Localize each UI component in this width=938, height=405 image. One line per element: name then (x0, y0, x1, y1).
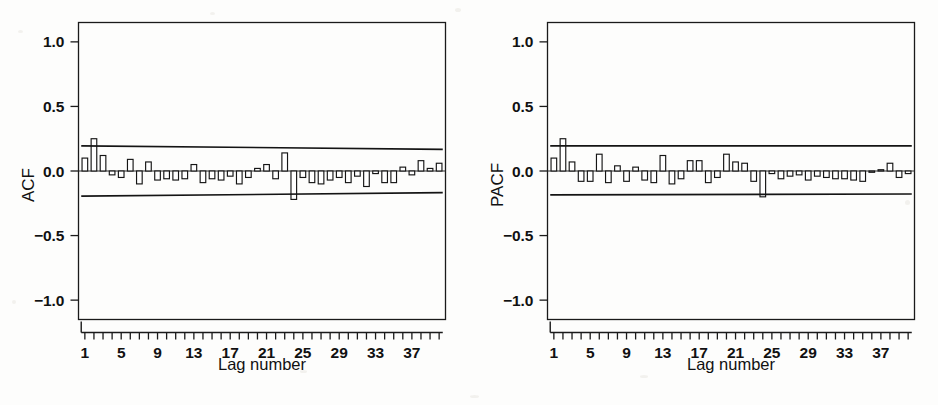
figure-page: 1.00.50.0−0.5−1.0 15913172125293337 ACF … (0, 0, 938, 405)
bar-lag-15 (678, 171, 684, 179)
y-tick-label: 1.0 (512, 33, 534, 50)
x-tick-label: 5 (586, 344, 595, 361)
bar-lag-15 (209, 171, 215, 179)
bar-lag-19 (715, 171, 721, 177)
bar-lag-11 (642, 171, 648, 180)
bar-lag-11 (173, 171, 179, 180)
bar-lag-32 (364, 171, 370, 187)
bar-lag-29 (336, 171, 342, 177)
bar-lag-12 (182, 171, 188, 179)
bar-lag-14 (200, 171, 206, 183)
y-tick-label: −1.0 (34, 292, 65, 309)
bar-lag-30 (345, 171, 351, 183)
bar-lag-23 (751, 171, 757, 181)
acf-y-ticks (71, 42, 79, 300)
x-tick-label: 5 (117, 344, 126, 361)
bar-lag-17 (227, 171, 233, 176)
acf-x-axis-title: Lag number (218, 355, 307, 373)
bar-lag-21 (733, 162, 739, 171)
bar-lag-22 (742, 163, 748, 171)
bar-lag-1 (551, 158, 557, 171)
pacf-confidence-band (550, 146, 912, 195)
bar-lag-35 (860, 171, 866, 181)
bar-lag-13 (660, 156, 666, 172)
bar-lag-4 (109, 171, 115, 175)
bar-lag-34 (851, 171, 857, 180)
pacf-y-ticks (540, 42, 548, 300)
bar-lag-13 (191, 165, 197, 171)
bar-lag-20 (255, 168, 261, 171)
bar-lag-12 (651, 171, 657, 183)
x-tick-label: 37 (403, 344, 420, 361)
bar-lag-38 (418, 161, 424, 171)
bar-lag-25 (769, 171, 775, 174)
bar-lag-35 (391, 171, 397, 183)
bar-lag-6 (596, 154, 602, 171)
x-tick-label: 13 (654, 344, 672, 361)
bar-lag-30 (814, 171, 820, 176)
bar-lag-29 (805, 171, 811, 180)
y-tick-label: −1.0 (503, 292, 534, 309)
bar-lag-26 (309, 171, 315, 183)
bar-lag-7 (606, 171, 612, 183)
y-tick-label: 1.0 (43, 33, 65, 50)
bar-lag-33 (842, 171, 848, 179)
y-tick-label: −0.5 (503, 227, 534, 244)
acf-y-axis-title: ACF (19, 168, 38, 202)
y-tick-label: 0.0 (512, 163, 534, 180)
bar-lag-2 (560, 139, 566, 171)
bar-lag-17 (696, 161, 702, 171)
y-tick-label: 0.0 (43, 163, 65, 180)
bar-lag-24 (760, 171, 766, 197)
x-tick-label: 9 (153, 344, 162, 361)
acf-panel: 1.00.50.0−0.5−1.0 15913172125293337 ACF … (0, 0, 469, 405)
bar-lag-7 (137, 171, 143, 184)
pacf-x-axis (550, 322, 912, 340)
bar-lag-20 (724, 154, 730, 171)
bar-lag-23 (282, 153, 288, 171)
bar-lag-18 (705, 171, 711, 183)
bar-lag-31 (824, 171, 830, 177)
bar-lag-31 (355, 171, 361, 176)
x-tick-label: 13 (185, 344, 203, 361)
bar-lag-8 (146, 162, 152, 171)
x-tick-label: 29 (331, 344, 349, 361)
x-tick-label: 1 (550, 344, 559, 361)
bar-lag-9 (624, 171, 630, 181)
bar-lag-5 (118, 171, 124, 177)
bar-lag-37 (409, 171, 415, 175)
x-tick-label: 33 (367, 344, 385, 361)
bar-lag-1 (82, 158, 88, 171)
bar-lag-21 (264, 165, 270, 171)
bar-lag-33 (373, 171, 379, 174)
bar-lag-10 (633, 167, 639, 171)
bar-lag-8 (615, 166, 621, 171)
bar-lag-25 (300, 171, 306, 177)
bar-lag-4 (578, 171, 584, 181)
bar-lag-14 (669, 171, 675, 184)
acf-x-axis (81, 322, 443, 340)
bar-lag-37 (878, 170, 884, 171)
bar-lag-28 (796, 171, 802, 175)
bar-lag-27 (318, 171, 324, 184)
bar-lag-9 (155, 171, 161, 180)
pacf-bars (551, 139, 911, 197)
pacf-y-axis-title: PACF (488, 163, 507, 207)
acf-plot: 1.00.50.0−0.5−1.0 15913172125293337 ACF … (0, 0, 469, 405)
bar-lag-39 (896, 171, 902, 177)
pacf-plot: 1.00.50.0−0.5−1.0 15913172125293337 PACF… (469, 0, 938, 405)
bar-lag-16 (687, 161, 693, 171)
bar-lag-34 (382, 171, 388, 183)
y-tick-label: 0.5 (512, 98, 534, 115)
bar-lag-38 (887, 163, 893, 171)
upper-confidence-limit (81, 146, 443, 149)
bar-lag-40 (905, 171, 911, 174)
pacf-panel: 1.00.50.0−0.5−1.0 15913172125293337 PACF… (469, 0, 938, 405)
x-tick-label: 9 (622, 344, 631, 361)
bar-lag-26 (778, 171, 784, 179)
x-tick-label: 29 (800, 344, 818, 361)
y-tick-label: 0.5 (43, 98, 65, 115)
bar-lag-18 (236, 171, 242, 184)
bar-lag-2 (91, 139, 97, 171)
bar-lag-40 (436, 163, 442, 171)
